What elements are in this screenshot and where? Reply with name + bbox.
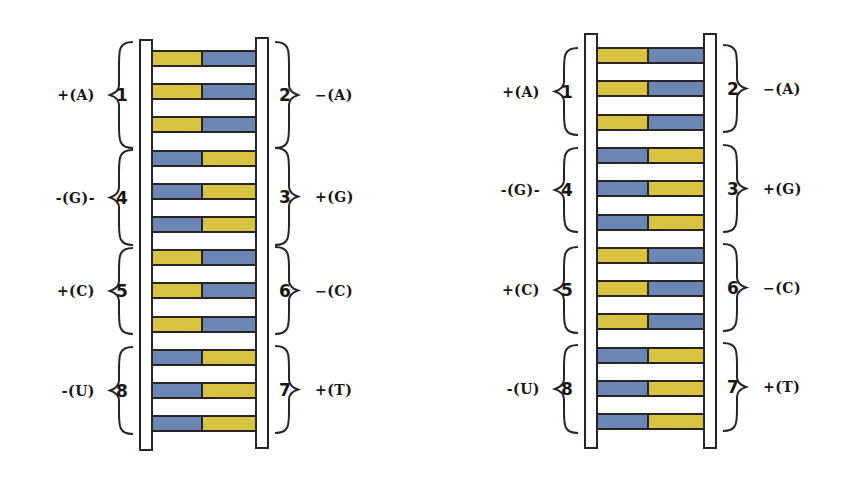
left-rail-backbone: [584, 33, 598, 449]
rung: [596, 380, 705, 397]
group-number: 8: [561, 381, 573, 398]
rung: [596, 214, 705, 231]
blue-base-segment: [649, 82, 703, 95]
group-number: 6: [727, 279, 739, 296]
rung: [596, 280, 705, 297]
base-label: +(A): [502, 85, 540, 99]
blue-base-segment: [598, 149, 649, 162]
rung: [596, 114, 705, 131]
base-label: +(G): [763, 182, 802, 196]
base-label: +(C): [502, 283, 540, 297]
brace-group: [0, 0, 864, 478]
right-rail-backbone: [703, 33, 717, 449]
blue-base-segment: [598, 349, 649, 362]
yellow-base-segment: [598, 249, 649, 262]
rung: [596, 247, 705, 264]
rung: [596, 147, 705, 164]
blue-base-segment: [598, 182, 649, 195]
yellow-base-segment: [649, 216, 703, 229]
yellow-base-segment: [598, 49, 649, 62]
group-number: 7: [727, 379, 739, 396]
yellow-base-segment: [598, 116, 649, 129]
blue-base-segment: [649, 116, 703, 129]
base-label: -(G)-: [501, 183, 540, 197]
blue-base-segment: [649, 315, 703, 328]
blue-base-segment: [649, 249, 703, 262]
rung: [596, 313, 705, 330]
group-number: 4: [561, 182, 573, 199]
blue-base-segment: [598, 382, 649, 395]
yellow-base-segment: [649, 149, 703, 162]
rung: [596, 413, 705, 430]
yellow-base-segment: [649, 415, 703, 428]
yellow-base-segment: [598, 315, 649, 328]
base-label: +(T): [763, 380, 800, 394]
yellow-base-segment: [598, 82, 649, 95]
blue-base-segment: [598, 415, 649, 428]
yellow-base-segment: [649, 182, 703, 195]
group-number: 1: [561, 83, 573, 100]
rung: [596, 80, 705, 97]
group-number: 5: [561, 282, 573, 299]
base-label: −(A): [763, 82, 801, 96]
rung: [596, 347, 705, 364]
rung: [596, 180, 705, 197]
blue-base-segment: [649, 49, 703, 62]
yellow-base-segment: [598, 282, 649, 295]
base-label: −(C): [763, 281, 801, 295]
yellow-base-segment: [649, 349, 703, 362]
group-number: 2: [727, 80, 739, 97]
ladder-right: 1+(A)2−(A)4-(G)-3+(G)5+(C)6−(C)8-(U)7+(T…: [0, 0, 864, 478]
base-label: -(U): [507, 382, 540, 396]
blue-base-segment: [598, 216, 649, 229]
blue-base-segment: [649, 282, 703, 295]
group-number: 3: [727, 180, 739, 197]
yellow-base-segment: [649, 382, 703, 395]
rung: [596, 47, 705, 64]
